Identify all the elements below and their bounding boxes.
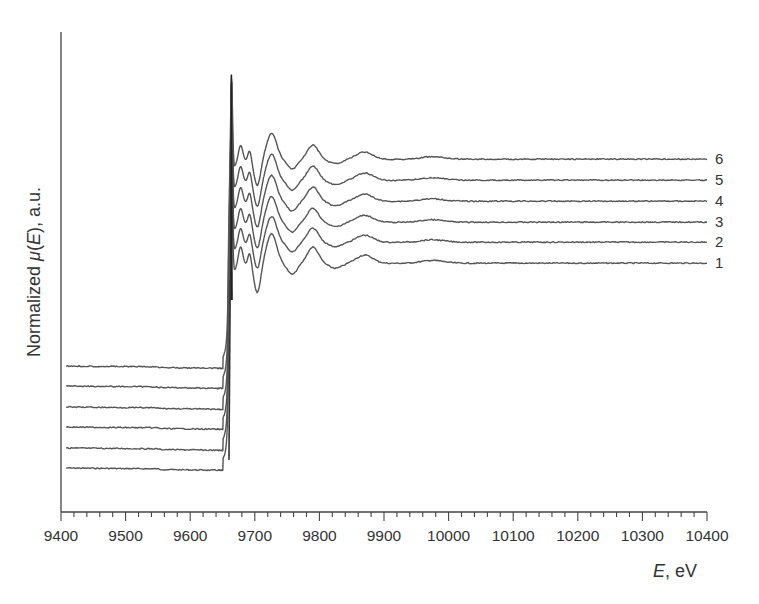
curve-label-3: 3 bbox=[715, 213, 723, 230]
x-tick-label: 9800 bbox=[302, 527, 337, 544]
x-tick-label: 10100 bbox=[492, 527, 535, 544]
x-tick-label: 10000 bbox=[427, 527, 470, 544]
x-axis-title: E, eV bbox=[653, 561, 697, 581]
spectra-curves bbox=[66, 75, 707, 471]
curve-label-5: 5 bbox=[715, 171, 723, 188]
x-tick-label: 9500 bbox=[108, 527, 143, 544]
x-axis-tick-labels: 9400950096009700980099001000010100102001… bbox=[44, 527, 729, 544]
y-axis-title: Normalized μ(E), a.u. bbox=[24, 187, 44, 357]
curve-label-4: 4 bbox=[715, 192, 723, 209]
spectrum-curve-5 bbox=[66, 91, 707, 389]
spectrum-curve-6 bbox=[66, 81, 707, 368]
x-tick-label: 9400 bbox=[44, 527, 79, 544]
axes: 9400950096009700980099001000010100102001… bbox=[44, 32, 729, 544]
spectrum-curve-3 bbox=[66, 83, 707, 430]
curve-label-1: 1 bbox=[715, 254, 723, 271]
curve-label-2: 2 bbox=[715, 233, 723, 250]
x-tick-label: 10200 bbox=[556, 527, 599, 544]
spectrum-curve-4 bbox=[66, 87, 707, 410]
spectrum-curve-2 bbox=[66, 79, 707, 451]
x-tick-label: 9600 bbox=[173, 527, 208, 544]
curve-label-6: 6 bbox=[715, 150, 723, 167]
x-tick-label: 9700 bbox=[238, 527, 273, 544]
x-tick-label: 10300 bbox=[621, 527, 664, 544]
x-axis-ticks bbox=[61, 512, 707, 521]
x-tick-label: 10400 bbox=[685, 527, 728, 544]
curve-labels: 123456 bbox=[715, 150, 723, 271]
xanes-chart: 9400950096009700980099001000010100102001… bbox=[0, 0, 759, 604]
spectrum-curve-1 bbox=[66, 75, 707, 471]
x-tick-label: 9900 bbox=[367, 527, 402, 544]
